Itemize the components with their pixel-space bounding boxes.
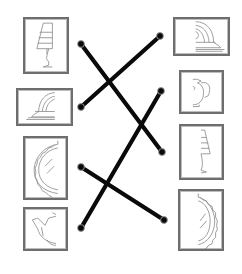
worksheet-title: Match the halves [0,0,1,1]
connection-dot-icon[interactable] [158,88,165,95]
connection-dot-icon[interactable] [157,33,164,40]
card-right-teapot[interactable] [179,70,224,114]
connection-dot-icon[interactable] [78,225,85,232]
teapot-left-half-icon [25,209,66,249]
card-left-mirror[interactable] [23,136,68,200]
card-left-mantel-clock[interactable] [16,88,73,126]
connection-dot-icon[interactable] [159,149,166,156]
card-right-mantel-clock[interactable] [173,17,230,56]
connection-line-L1-R3[interactable] [81,44,162,152]
card-left-lamp[interactable] [23,17,69,74]
connection-dot-icon[interactable] [78,104,85,111]
card-right-lamp[interactable] [179,124,224,180]
connection-line-L3-R4[interactable] [81,167,164,220]
lamp-right-half-icon [181,126,222,178]
connection-line-L4-R2[interactable] [81,91,161,228]
card-left-teapot[interactable] [23,207,68,251]
connection-dot-icon[interactable] [78,164,85,171]
mirror-right-half-icon [180,191,222,249]
mirror-left-half-icon [25,138,66,198]
connection-dot-icon[interactable] [161,217,168,224]
connection-dot-icon[interactable] [78,41,85,48]
mantel-clock-right-half-icon [175,19,228,54]
card-right-mirror[interactable] [178,189,224,251]
lamp-left-half-icon [25,19,67,72]
connection-line-L2-R1[interactable] [81,36,160,107]
teapot-right-half-icon [181,72,222,112]
mantel-clock-left-half-icon [18,90,71,124]
